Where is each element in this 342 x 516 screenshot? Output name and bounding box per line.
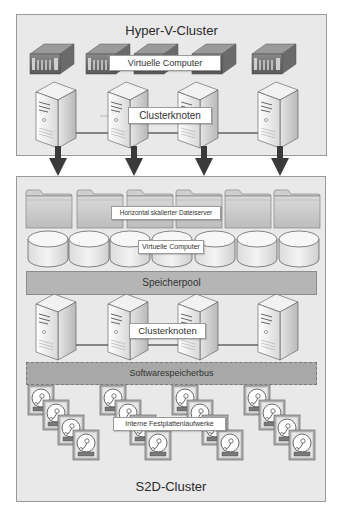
down-arrow-icon	[195, 146, 213, 176]
s2d-vm-label: Virtuelle Computer	[138, 240, 204, 254]
tower-server-icon	[36, 82, 76, 148]
virtual-disk-icon	[279, 231, 319, 267]
storage-pool-bar: Speicherpool	[26, 271, 317, 295]
folder-icon	[26, 190, 72, 228]
folder-icon	[274, 190, 320, 228]
drive-group-4	[244, 385, 315, 460]
arrows	[49, 146, 289, 176]
diagram-graphics	[0, 0, 342, 516]
vm-server-icon	[30, 44, 74, 74]
tower-server-icon	[36, 294, 76, 360]
s2d-node-label: Clusterknoten	[129, 323, 206, 339]
virtual-disk-icon	[69, 231, 109, 267]
vm-server-icon	[252, 44, 296, 74]
software-storage-bus-label: Softwarespeicherbus	[129, 368, 213, 378]
fileserver-label: Horizontal skalierter Dateiserver	[111, 206, 221, 220]
tower-server-icon	[258, 294, 298, 360]
internal-drives-label: Interne Festplattenlaufwerke	[113, 417, 226, 431]
virtual-disk-icon	[237, 231, 277, 267]
down-arrow-icon	[125, 146, 143, 176]
down-arrow-icon	[271, 146, 289, 176]
drive-group-1	[28, 385, 99, 460]
hyperv-vm-label: Virtuelle Computer	[109, 55, 221, 71]
folder-icon	[225, 190, 271, 228]
virtual-disk-icon	[28, 231, 68, 267]
tower-server-icon	[258, 82, 298, 148]
down-arrow-icon	[49, 146, 67, 176]
storage-pool-label: Speicherpool	[142, 277, 200, 288]
software-storage-bus-bar: Softwarespeicherbus	[26, 362, 317, 385]
hyperv-node-label: Clusterknoten	[128, 107, 212, 124]
